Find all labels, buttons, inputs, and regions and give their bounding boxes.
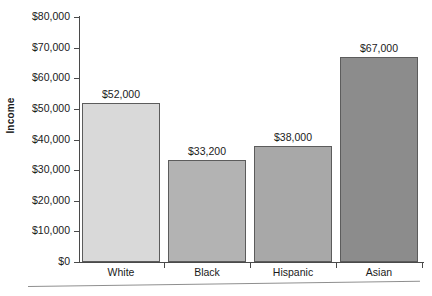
bar-value-label-black: $33,200 <box>168 145 246 157</box>
bar-white <box>82 103 160 262</box>
bar-value-label-white: $52,000 <box>82 88 160 100</box>
bar-black <box>168 160 246 262</box>
x-axis-category-label-white: White <box>82 266 160 278</box>
x-axis-category-label-asian: Asian <box>340 266 418 278</box>
x-axis-tick-mark <box>164 263 165 268</box>
x-axis-tick-mark-end <box>422 263 423 268</box>
x-axis-category-label-black: Black <box>168 266 246 278</box>
plot-area: $52,000White$33,200Black$38,000Hispanic$… <box>0 0 432 296</box>
bar-hispanic <box>254 146 332 262</box>
income-bar-chart: Income $0$10,000$20,000$30,000$40,000$50… <box>0 0 432 296</box>
x-axis-category-label-hispanic: Hispanic <box>254 266 332 278</box>
bar-asian <box>340 57 418 262</box>
x-axis-tick-mark <box>250 263 251 268</box>
bar-value-label-asian: $67,000 <box>340 42 418 54</box>
bar-value-label-hispanic: $38,000 <box>254 131 332 143</box>
x-axis-tick-mark <box>336 263 337 268</box>
